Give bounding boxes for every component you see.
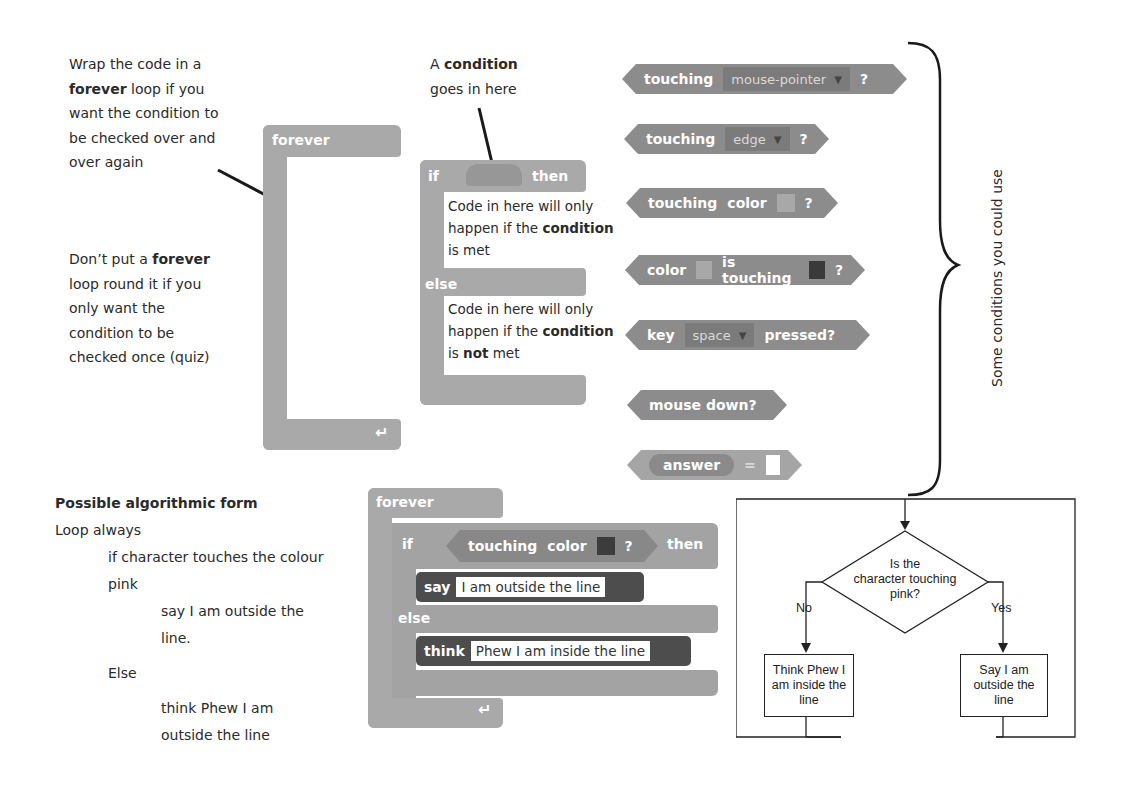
else-body-text: Code in here will only happen if the con… — [448, 298, 614, 364]
decision-line: Is the — [846, 557, 964, 572]
color-label: color — [647, 262, 686, 278]
algorithm-line: line. — [161, 625, 323, 652]
box-line: line — [973, 693, 1034, 708]
keyword-forever: forever — [69, 81, 127, 97]
say-label: say — [424, 579, 450, 595]
algorithm-line: Loop always — [55, 517, 323, 544]
is-touching-label: is touching — [722, 254, 799, 286]
object-dropdown[interactable]: mouse-pointer▼ — [723, 67, 850, 91]
touching-label: touching — [644, 71, 713, 87]
forever-tip-line: want the condition to — [69, 101, 259, 126]
condition-key-pressed[interactable]: key space▼ pressed? — [625, 320, 870, 350]
color-swatch[interactable] — [597, 537, 615, 555]
condition-answer-equals[interactable]: answer = — [627, 450, 802, 480]
color-swatch-1[interactable] — [696, 261, 712, 279]
question-mark: ? — [800, 131, 808, 147]
brace-label: Some conditions you could use — [985, 168, 1010, 388]
else-body-line: is not met — [448, 342, 614, 364]
think-text-input[interactable]: Phew I am inside the line — [471, 641, 650, 661]
condition-touching-mouse-pointer[interactable]: touching mouse-pointer▼ ? — [622, 64, 907, 94]
no-forever-tip-line: only want the — [69, 296, 259, 321]
else-body-text-part: met — [488, 345, 519, 361]
condition-mouse-down[interactable]: mouse down? — [627, 390, 787, 420]
forever-tip-line: Wrap the code in a — [69, 52, 259, 77]
keyword-not: not — [463, 345, 488, 361]
no-forever-tip-line: Don’t put a forever — [69, 247, 259, 272]
touching-label: touching — [648, 195, 717, 211]
curly-brace-icon — [900, 40, 970, 498]
condition-touching-color[interactable]: touching color ? — [626, 188, 838, 218]
else-label: else — [425, 276, 457, 292]
no-forever-text: Don’t put a — [69, 251, 152, 267]
algorithm-line: say I am outside the — [161, 598, 323, 625]
algorithm-line: outside the line — [161, 722, 323, 749]
flowchart: Is the character touching pink? No Yes T… — [736, 497, 1076, 747]
if-body-line: is met — [448, 239, 614, 261]
algorithm-line: pink — [108, 571, 323, 598]
forever-block-arm — [263, 125, 287, 450]
no-label: No — [796, 601, 812, 616]
dropdown-arrow-icon: ▼ — [774, 134, 782, 145]
equals-operator: = — [744, 457, 756, 473]
color-label: color — [547, 538, 586, 554]
else-body-line: happen if the condition — [448, 320, 614, 342]
then-label: then — [667, 536, 703, 552]
keyword-condition: condition — [542, 220, 613, 236]
touching-label: touching — [468, 538, 537, 554]
box-line: Think Phew I — [772, 663, 846, 678]
algorithm-line: think Phew I am — [161, 695, 323, 722]
say-process-text: Say I am outside the line — [973, 663, 1034, 708]
forever-block-empty[interactable]: forever ↵ — [263, 125, 401, 450]
then-label: then — [532, 168, 568, 184]
question-mark: ? — [835, 262, 843, 278]
say-block[interactable]: say I am outside the line — [416, 572, 644, 602]
keyword-condition: condition — [542, 323, 613, 339]
dropdown-value: mouse-pointer — [731, 72, 826, 87]
example-script[interactable]: forever ↵ if touching color ? then say I… — [368, 488, 720, 728]
forever-tip: Wrap the code in a forever loop if you w… — [69, 52, 259, 175]
condition-tip-text: A — [430, 56, 444, 72]
think-block[interactable]: think Phew I am inside the line — [416, 636, 691, 666]
color-swatch-2[interactable] — [809, 261, 825, 279]
say-process-box: Say I am outside the line — [960, 654, 1048, 717]
condition-tip-line: A condition — [430, 52, 518, 77]
box-line: line — [772, 693, 846, 708]
answer-value-input[interactable] — [766, 455, 780, 475]
question-mark: ? — [805, 195, 813, 211]
forever-label: forever — [272, 132, 330, 148]
dropdown-value: space — [693, 328, 731, 343]
answer-reporter[interactable]: answer — [649, 454, 734, 476]
condition-color-touching-color[interactable]: color is touching ? — [625, 255, 865, 285]
key-dropdown[interactable]: space▼ — [685, 323, 755, 347]
forever-tip-line: be checked over and — [69, 126, 259, 151]
think-process-box: Think Phew I am inside the line — [764, 654, 854, 717]
if-body-text-part: happen if the — [448, 220, 542, 236]
condition-slot[interactable] — [466, 164, 522, 186]
inner-else-header — [392, 605, 718, 633]
say-text-input[interactable]: I am outside the line — [456, 577, 605, 597]
decision-line: pink? — [846, 587, 964, 602]
dropdown-arrow-icon: ▼ — [739, 330, 747, 341]
algorithm-title: Possible algorithmic form — [55, 490, 323, 517]
color-swatch[interactable] — [777, 194, 795, 212]
box-line: Say I am — [973, 663, 1034, 678]
algorithm-line: Else — [108, 660, 323, 687]
else-body-line: Code in here will only — [448, 298, 614, 320]
if-else-block[interactable]: if then Code in here will only happen if… — [420, 160, 620, 405]
if-body-text: Code in here will only happen if the con… — [448, 195, 614, 261]
decision-text: Is the character touching pink? — [846, 557, 964, 602]
mouse-down-label: mouse down? — [649, 397, 757, 413]
keyword-condition: condition — [444, 56, 518, 72]
forever-label: forever — [376, 494, 434, 510]
loop-arrow-icon: ↵ — [375, 423, 388, 442]
think-label: think — [424, 643, 465, 659]
condition-touching-color-dark[interactable]: touching color ? — [446, 530, 658, 562]
object-dropdown[interactable]: edge▼ — [725, 127, 789, 151]
question-mark: ? — [625, 538, 633, 554]
condition-touching-edge[interactable]: touching edge▼ ? — [624, 124, 829, 154]
box-line: am inside the — [772, 678, 846, 693]
condition-tip: A condition goes in here — [430, 52, 518, 101]
if-body-line: happen if the condition — [448, 217, 614, 239]
decision-line: character touching — [846, 572, 964, 587]
no-forever-tip-line: condition to be — [69, 321, 259, 346]
